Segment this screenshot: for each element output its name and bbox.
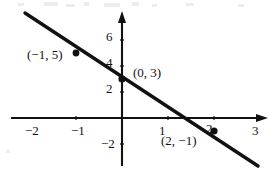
y-tick-label-4: 4: [106, 56, 113, 69]
point-label-2-minus1: (2, −1): [161, 134, 197, 147]
x-tick-label-minus-1: −1: [71, 124, 85, 137]
y-axis: [118, 11, 126, 166]
x-axis: [11, 114, 268, 122]
data-point-a: [73, 50, 80, 57]
data-point-b: [118, 75, 125, 82]
y-tick-label-6: 6: [106, 30, 113, 43]
x-tick-label-2: 2: [206, 122, 213, 135]
coordinate-plane: [0, 0, 274, 172]
plotted-line: [25, 13, 258, 166]
x-tick-label-minus-2: −2: [25, 124, 39, 137]
x-tick-label-3: 3: [252, 124, 259, 137]
point-label-0-3: (0, 3): [133, 66, 161, 79]
y-tick-label-minus-2: −2: [101, 137, 115, 150]
point-label-minus1-5: (−1, 5): [27, 48, 63, 61]
graph-figure: −2 −1 1 2 3 6 4 2 −2 (−1, 5) (0, 3) (2, …: [0, 0, 274, 172]
y-tick-label-2: 2: [106, 82, 113, 95]
